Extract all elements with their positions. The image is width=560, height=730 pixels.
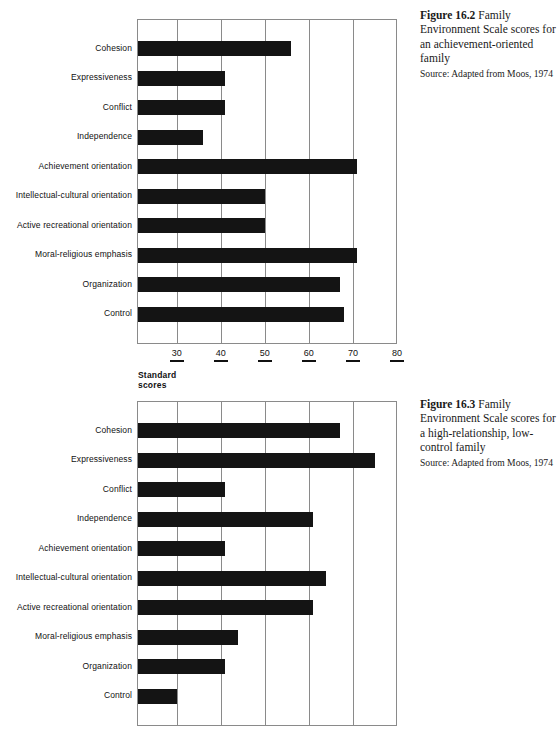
gridline xyxy=(309,20,310,343)
x-axis-tick-label: 70 xyxy=(342,348,364,358)
figure-caption-16-2: Figure 16.2 Family Environment Scale sco… xyxy=(420,8,556,80)
gridline xyxy=(221,20,222,343)
bar xyxy=(138,307,344,322)
category-label: Independence xyxy=(0,513,132,523)
bar xyxy=(138,277,340,292)
category-label: Intellectual-cultural orientation xyxy=(0,190,132,200)
category-label: Moral-religious emphasis xyxy=(0,631,132,641)
gridline xyxy=(309,402,310,725)
x-axis-tick-mark xyxy=(390,360,404,362)
gridline xyxy=(177,402,178,725)
figure-caption-16-3: Figure 16.3 Family Environment Scale sco… xyxy=(420,397,556,469)
bar xyxy=(138,630,238,645)
x-axis-title: Standard scores xyxy=(138,370,176,390)
bar xyxy=(138,41,291,56)
bar xyxy=(138,600,313,615)
gridline xyxy=(353,20,354,343)
bar xyxy=(138,482,225,497)
caption-text: Figure 16.3 Family Environment Scale sco… xyxy=(420,397,556,455)
caption-source: Source: Adapted from Moos, 1974 xyxy=(420,457,556,469)
category-label: Achievement orientation xyxy=(0,543,132,553)
category-label: Independence xyxy=(0,131,132,141)
category-label: Cohesion xyxy=(0,425,132,435)
x-axis-tick-mark xyxy=(214,360,228,362)
x-axis-tick-mark xyxy=(258,360,272,362)
category-label: Organization xyxy=(0,279,132,289)
bar xyxy=(138,571,326,586)
caption-number: Figure 16.3 xyxy=(420,398,475,410)
category-label: Active recreational orientation xyxy=(0,220,132,230)
bar xyxy=(138,423,340,438)
bar xyxy=(138,71,225,86)
category-label: Conflict xyxy=(0,102,132,112)
bar xyxy=(138,689,177,704)
x-axis-tick-label: 60 xyxy=(298,348,320,358)
x-axis-tick-mark xyxy=(302,360,316,362)
caption-number: Figure 16.2 xyxy=(420,9,475,21)
bar xyxy=(138,100,225,115)
category-label: Active recreational orientation xyxy=(0,602,132,612)
x-axis-tick-label: 30 xyxy=(166,348,188,358)
category-label: Cohesion xyxy=(0,43,132,53)
category-label: Conflict xyxy=(0,484,132,494)
gridline xyxy=(221,402,222,725)
category-label: Expressiveness xyxy=(0,72,132,82)
x-axis-tick-label: 40 xyxy=(210,348,232,358)
plot-area xyxy=(137,401,397,726)
x-axis-tick-mark xyxy=(346,360,360,362)
bar xyxy=(138,453,375,468)
bar xyxy=(138,512,313,527)
gridline xyxy=(353,402,354,725)
bar xyxy=(138,159,357,174)
category-label: Achievement orientation xyxy=(0,161,132,171)
bar xyxy=(138,218,265,233)
bar xyxy=(138,189,265,204)
bar xyxy=(138,541,225,556)
bar xyxy=(138,248,357,263)
gridline xyxy=(265,402,266,725)
x-axis-tick-label: 80 xyxy=(386,348,408,358)
caption-source: Source: Adapted from Moos, 1974 xyxy=(420,68,556,80)
x-axis-tick-label: 50 xyxy=(254,348,276,358)
category-label: Moral-religious emphasis xyxy=(0,249,132,259)
category-label: Control xyxy=(0,690,132,700)
gridline xyxy=(177,20,178,343)
category-label: Organization xyxy=(0,661,132,671)
plot-area xyxy=(137,19,397,344)
bar xyxy=(138,130,203,145)
category-label: Control xyxy=(0,308,132,318)
bar xyxy=(138,659,225,674)
category-label: Intellectual-cultural orientation xyxy=(0,572,132,582)
caption-text: Figure 16.2 Family Environment Scale sco… xyxy=(420,8,556,66)
category-label: Expressiveness xyxy=(0,454,132,464)
gridline xyxy=(265,20,266,343)
x-axis-tick-mark xyxy=(170,360,184,362)
